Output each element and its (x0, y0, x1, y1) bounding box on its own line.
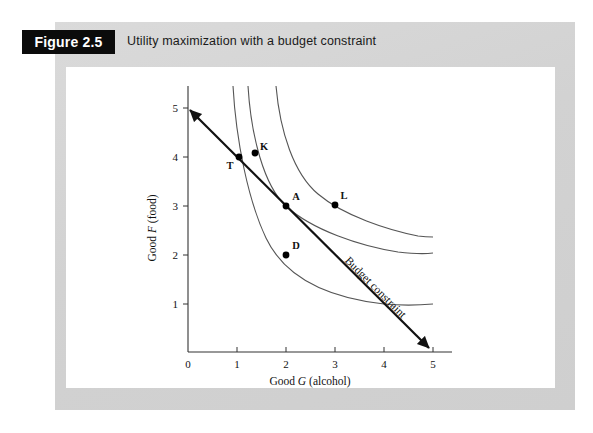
figure-white-area (66, 67, 555, 388)
figure-screenshot: Figure 2.5 Utility maximization with a b… (0, 0, 593, 433)
figure-number-badge: Figure 2.5 (22, 30, 115, 54)
figure-caption-title: Utility maximization with a budget const… (127, 34, 376, 48)
